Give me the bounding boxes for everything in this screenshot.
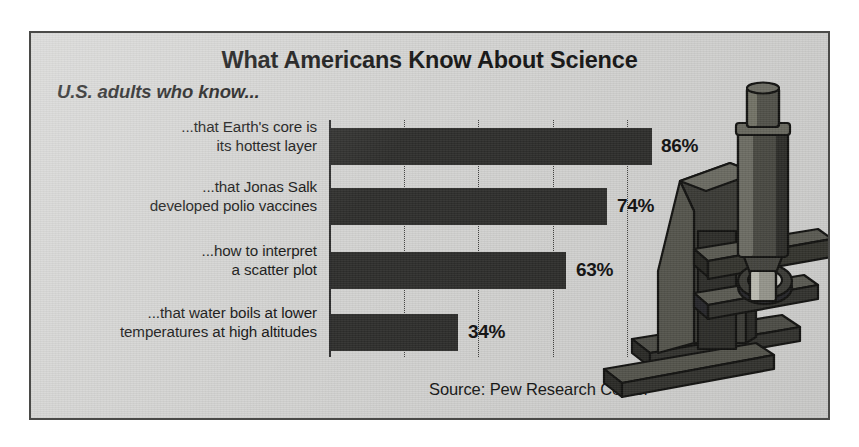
bar-label-line1: ...that Earth's core is [181, 118, 317, 135]
bar-label-line2: developed polio vaccines [150, 197, 317, 214]
chart-subtitle: U.S. adults who know... [57, 81, 260, 103]
microscope-icon [586, 81, 830, 420]
bar [331, 188, 607, 225]
chart-canvas: What Americans Know About Science U.S. a… [0, 0, 859, 447]
bar-label-line1: ...that Jonas Salk [202, 178, 317, 195]
microscope-illustration [586, 81, 830, 420]
bar [331, 314, 458, 351]
bar-label: ...that Jonas Salk developed polio vacci… [47, 178, 317, 215]
chart-title: What Americans Know About Science [31, 47, 828, 74]
chart-panel: What Americans Know About Science U.S. a… [29, 31, 830, 420]
bar-label-line2: a scatter plot [231, 261, 317, 278]
bar-label: ...that water boils at lower temperature… [47, 304, 317, 341]
bar-label: ...how to interpret a scatter plot [47, 242, 317, 279]
bar-label-line1: ...how to interpret [202, 242, 317, 259]
bar-label-line2: temperatures at high altitudes [120, 323, 317, 340]
bar-label: ...that Earth's core is its hottest laye… [47, 118, 317, 155]
bar-label-line1: ...that water boils at lower [148, 304, 317, 321]
bar [331, 252, 566, 289]
bar-value: 34% [468, 321, 505, 343]
bar-label-line2: its hottest layer [217, 137, 317, 154]
